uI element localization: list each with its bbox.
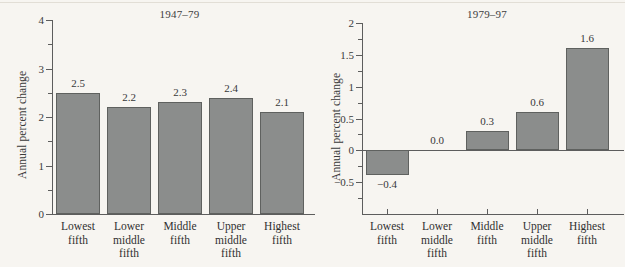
- y-tick-major: [356, 87, 362, 88]
- bar-value-label: 2.2: [103, 91, 155, 103]
- bar: [209, 98, 253, 214]
- y-tick-minor: [48, 93, 52, 94]
- y-tick-label: 0: [20, 208, 44, 220]
- x-tick: [487, 209, 488, 214]
- bar-value-label: 2.1: [256, 96, 308, 108]
- bar: [366, 150, 409, 175]
- bar: [107, 107, 151, 214]
- y-tick-minor: [358, 103, 362, 104]
- bar-value-label: 2.5: [52, 77, 104, 89]
- bar-value-label: 2.3: [154, 86, 206, 98]
- y-tick-minor: [358, 198, 362, 199]
- y-tick-major: [356, 55, 362, 56]
- bar: [260, 112, 304, 214]
- y-tick-label: 2: [326, 17, 354, 29]
- y-tick-major: [46, 69, 52, 70]
- y-tick-major: [356, 23, 362, 24]
- x-tick: [387, 209, 388, 214]
- bar-value-label: 0.0: [411, 134, 463, 146]
- bar-value-label: 2.4: [205, 82, 257, 94]
- y-tick-major: [46, 20, 52, 21]
- y-tick-label: 1: [20, 160, 44, 172]
- bar: [516, 112, 559, 150]
- bar: [56, 93, 100, 214]
- bar: [466, 131, 509, 150]
- chart-title-left: 1947–79: [52, 8, 307, 20]
- x-tick: [537, 209, 538, 214]
- y-tick-minor: [48, 141, 52, 142]
- y-axis-spine-left: [52, 20, 53, 215]
- bar: [158, 102, 202, 214]
- y-tick-minor: [358, 166, 362, 167]
- y-tick-label: 0: [326, 144, 354, 156]
- y-tick-label: −0.5: [326, 176, 354, 188]
- bar: [566, 48, 609, 150]
- bar-value-label: 0.3: [461, 115, 513, 127]
- x-axis-spine-right: [362, 214, 624, 215]
- bar-value-label: −0.4: [361, 178, 413, 190]
- x-tick: [437, 209, 438, 214]
- y-tick-major: [46, 214, 52, 215]
- x-tick: [587, 209, 588, 214]
- category-label: Highest fifth: [553, 220, 621, 247]
- bar-value-label: 0.6: [511, 96, 563, 108]
- y-tick-minor: [48, 44, 52, 45]
- y-tick-minor: [358, 134, 362, 135]
- y-tick-label: 3: [20, 63, 44, 75]
- y-tick-major: [356, 119, 362, 120]
- y-tick-label: 1: [326, 81, 354, 93]
- bar-value-label: 1.6: [561, 32, 613, 44]
- y-tick-label: 4: [20, 14, 44, 26]
- y-tick-minor: [48, 190, 52, 191]
- y-tick-major: [46, 166, 52, 167]
- y-tick-label: 1.5: [326, 49, 354, 61]
- chart-panel-1947-79: 1947–79 Annual percent change 012342.5Lo…: [0, 0, 322, 267]
- y-tick-label: 0.5: [326, 113, 354, 125]
- chart-panel-1979-97: 1979–97 Annual percent change −0.500.511…: [322, 0, 625, 267]
- y-tick-major: [46, 117, 52, 118]
- y-tick-major: [356, 150, 362, 151]
- category-label: Highest fifth: [248, 220, 316, 247]
- y-tick-minor: [358, 39, 362, 40]
- y-tick-minor: [358, 71, 362, 72]
- x-axis-spine-left: [52, 214, 315, 215]
- chart-title-right: 1979–97: [362, 8, 612, 20]
- y-tick-label: 2: [20, 111, 44, 123]
